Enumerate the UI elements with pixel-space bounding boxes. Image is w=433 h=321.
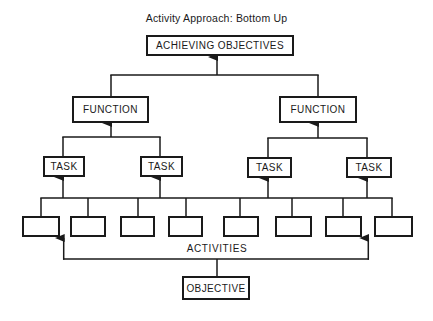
activity-box-2 bbox=[70, 216, 106, 237]
activity-box-7 bbox=[325, 216, 362, 237]
activities-label: ACTIVITIES bbox=[177, 243, 257, 254]
function-label: FUNCTION bbox=[291, 104, 346, 115]
task-label: TASK bbox=[356, 162, 383, 173]
function-label: FUNCTION bbox=[83, 104, 138, 115]
function-box-right: FUNCTION bbox=[279, 96, 357, 123]
achieving-objectives-box: ACHIEVING OBJECTIVES bbox=[146, 35, 294, 56]
activity-box-6 bbox=[275, 216, 312, 237]
objective-box: OBJECTIVE bbox=[182, 276, 250, 300]
function-box-left: FUNCTION bbox=[72, 96, 149, 123]
activity-box-1 bbox=[22, 216, 60, 237]
diagram-title: Activity Approach: Bottom Up bbox=[0, 12, 433, 24]
task-label: TASK bbox=[148, 161, 175, 172]
task-box-2: TASK bbox=[140, 156, 183, 177]
task-box-3: TASK bbox=[247, 157, 292, 178]
task-label: TASK bbox=[256, 162, 283, 173]
activity-box-4 bbox=[168, 216, 203, 237]
objective-label: OBJECTIVE bbox=[186, 283, 245, 294]
task-box-4: TASK bbox=[346, 157, 392, 178]
task-box-1: TASK bbox=[43, 156, 85, 177]
achieving-objectives-label: ACHIEVING OBJECTIVES bbox=[156, 40, 284, 51]
activity-box-5 bbox=[223, 216, 259, 237]
activity-box-3 bbox=[120, 216, 155, 237]
task-label: TASK bbox=[51, 161, 78, 172]
activity-box-8 bbox=[374, 216, 413, 237]
